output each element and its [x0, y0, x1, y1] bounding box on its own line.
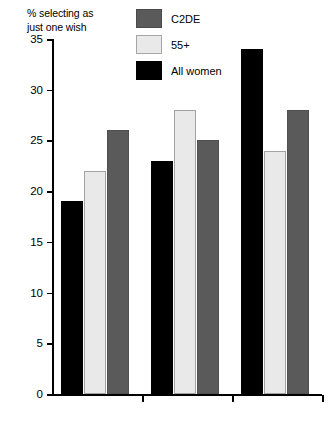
y-axis-tick-label: 5 [37, 337, 43, 349]
legend-item-c2de: C2DE [136, 8, 276, 29]
bar [197, 140, 219, 394]
bar [107, 130, 129, 394]
y-axis-tick-mark [47, 90, 53, 92]
y-axis-tick-mark [47, 191, 53, 193]
y-axis-tick-mark [47, 39, 53, 41]
y-axis-tick-label: 0 [37, 388, 43, 400]
y-axis-tick-mark [47, 242, 53, 244]
y-axis-tick-mark [47, 293, 53, 295]
x-axis-group-separator [142, 395, 144, 402]
y-axis-tick-label: 20 [30, 185, 43, 197]
y-axis-tick-mark [47, 343, 53, 345]
y-axis-tick-label: 10 [30, 287, 43, 299]
x-axis-group-separator [322, 395, 324, 402]
y-axis-tick-label: 35 [30, 33, 43, 45]
bar [174, 110, 196, 394]
y-axis-tick-mark [47, 140, 53, 142]
y-axis-tick-label: 30 [30, 84, 43, 96]
legend-label-c2de: C2DE [171, 13, 200, 25]
y-axis-line [52, 39, 54, 395]
y-axis-tick-label: 25 [30, 134, 43, 146]
y-axis-tick-mark [47, 394, 53, 396]
bar [84, 171, 106, 394]
y-axis-tick-label: 15 [30, 236, 43, 248]
y-axis-caption: % selecting as just one wish [27, 7, 93, 34]
bar-chart: % selecting as just one wish C2DE 55+ Al… [0, 0, 334, 436]
bar [151, 161, 173, 394]
bar [241, 49, 263, 394]
legend-swatch-c2de [136, 9, 162, 28]
x-axis-line [52, 394, 322, 396]
bar [287, 110, 309, 394]
x-axis-group-separator [232, 395, 234, 402]
bar [61, 201, 83, 394]
bar [264, 151, 286, 394]
plot-area: 35302520151050Less fearAfford somethingF… [52, 39, 322, 394]
